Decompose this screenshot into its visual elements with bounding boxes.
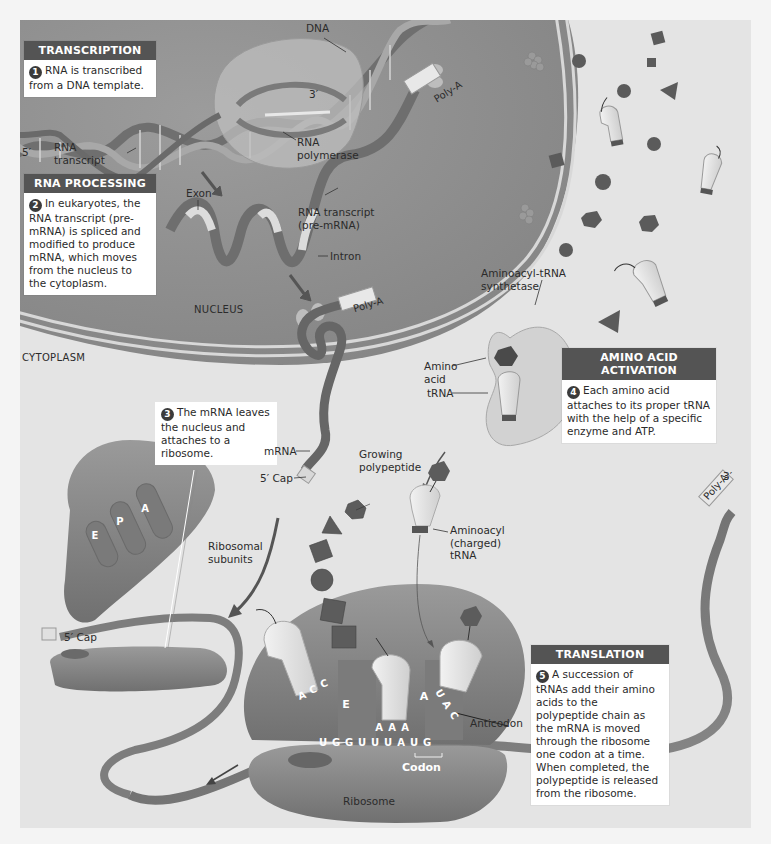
nucleus-label: NUCLEUS bbox=[194, 304, 243, 317]
step-body: 5A succession of tRNAs add their amino a… bbox=[531, 664, 669, 805]
base: U bbox=[317, 737, 329, 748]
mrna-to-ribosome-arrow bbox=[235, 518, 278, 612]
site-e-label: E bbox=[340, 698, 352, 711]
synthetase-label: Aminoacyl-tRNA synthetase bbox=[481, 267, 566, 292]
three-prime-label-top: 3′ bbox=[309, 88, 318, 101]
site-a-label-subunit: A bbox=[139, 503, 151, 514]
step-box-mrna-export: 3The mRNA leaves the nucleus and attache… bbox=[155, 402, 277, 465]
cytoplasm-label: CYTOPLASM bbox=[22, 352, 85, 365]
step-text: RNA is transcribed from a DNA template. bbox=[29, 64, 144, 91]
exon-label: Exon bbox=[186, 187, 212, 200]
ribosome-label: Ribosome bbox=[343, 795, 395, 808]
base: G bbox=[421, 737, 433, 748]
step-title: TRANSLATION bbox=[531, 645, 669, 664]
growing-polypeptide-label: Growing polypeptide bbox=[359, 448, 421, 473]
label-line: transcript bbox=[54, 154, 105, 167]
step-text: A succession of tRNAs add their amino ac… bbox=[536, 668, 658, 799]
amino-acid-label: Amino acid bbox=[424, 360, 457, 385]
label-line: Amino bbox=[424, 360, 457, 373]
step-box-rna-processing: RNA PROCESSING 2In eukaryotes, the RNA t… bbox=[24, 174, 156, 295]
site-e-label-subunit: E bbox=[89, 530, 101, 541]
five-cap-label-lower: 5′ Cap bbox=[64, 631, 97, 644]
anticodon-label: Anticodon bbox=[470, 717, 523, 730]
label-line: synthetase bbox=[481, 280, 566, 293]
step-number-badge: 2 bbox=[29, 199, 42, 212]
site-a-label: A bbox=[418, 690, 430, 703]
label-line: polymerase bbox=[297, 149, 359, 162]
label-line: tRNA bbox=[450, 549, 505, 562]
step-number-badge: 3 bbox=[161, 408, 174, 421]
step-title: TRANSCRIPTION bbox=[24, 41, 156, 60]
base: G bbox=[330, 737, 342, 748]
label-line: Ribosomal bbox=[208, 540, 263, 553]
mrna-label: mRNA bbox=[264, 445, 297, 458]
step-number-badge: 5 bbox=[536, 670, 549, 683]
label-line: Aminoacyl-tRNA bbox=[481, 267, 566, 280]
five-cap-label: 5′ Cap bbox=[260, 472, 293, 485]
label-line: RNA bbox=[297, 136, 359, 149]
label-line: RNA bbox=[54, 141, 105, 154]
base: A bbox=[399, 722, 411, 733]
base: U bbox=[369, 737, 381, 748]
site-p-label-subunit: P bbox=[114, 516, 126, 527]
step-body: 1RNA is transcribed from a DNA template. bbox=[24, 60, 156, 97]
ribosomal-subunits-label: Ribosomal subunits bbox=[208, 540, 263, 565]
rna-transcript-pre-label: RNA transcript (pre-mRNA) bbox=[298, 206, 374, 231]
label-line: Aminoacyl bbox=[450, 524, 505, 537]
label-line: (pre-mRNA) bbox=[298, 219, 374, 232]
trna-label: tRNA bbox=[427, 387, 453, 400]
base: G bbox=[343, 737, 355, 748]
dna-label: DNA bbox=[306, 22, 329, 35]
figure-canvas: NUCLEUS CYTOPLASM TRANSCRIPTION 1RNA is … bbox=[20, 20, 751, 828]
codon-label: Codon bbox=[402, 762, 441, 775]
arrow-head bbox=[206, 777, 216, 785]
base: A bbox=[395, 737, 407, 748]
rna-transcript-label: RNA transcript bbox=[54, 141, 105, 166]
label-line: RNA transcript bbox=[298, 206, 374, 219]
step-body: 4Each amino acid attaches to its proper … bbox=[562, 380, 716, 443]
ribosomal-subunits-separated bbox=[42, 440, 239, 795]
base: U bbox=[408, 737, 420, 748]
step-text: The mRNA leaves the nucleus and attaches… bbox=[161, 406, 270, 459]
step-box-amino-acid-activation: AMINO ACID ACTIVATION 4Each amino acid a… bbox=[562, 348, 716, 443]
step-number-badge: 4 bbox=[567, 386, 580, 399]
step-box-translation: TRANSLATION 5A succession of tRNAs add t… bbox=[531, 645, 669, 805]
step-box-transcription: TRANSCRIPTION 1RNA is transcribed from a… bbox=[24, 41, 156, 97]
charged-trna-label: Aminoacyl (charged) tRNA bbox=[450, 524, 505, 562]
five-prime-label: 5′ bbox=[22, 146, 31, 159]
label-line: (charged) bbox=[450, 537, 505, 550]
label-line: polypeptide bbox=[359, 461, 421, 474]
step-title: RNA PROCESSING bbox=[24, 174, 156, 193]
base: A bbox=[386, 722, 398, 733]
base: A bbox=[373, 722, 385, 733]
intron-label: Intron bbox=[330, 250, 361, 263]
step-number-badge: 1 bbox=[29, 66, 42, 79]
step-body: 2In eukaryotes, the RNA transcript (pre-… bbox=[24, 193, 156, 295]
base: U bbox=[356, 737, 368, 748]
free-trnas bbox=[597, 96, 724, 316]
label-line: subunits bbox=[208, 553, 263, 566]
step-text: Each amino acid attaches to its proper t… bbox=[567, 384, 710, 437]
step-text: In eukaryotes, the RNA transcript (pre-m… bbox=[29, 197, 141, 289]
base: U bbox=[382, 737, 394, 748]
rna-polymerase-label: RNA polymerase bbox=[297, 136, 359, 161]
step-title: AMINO ACID ACTIVATION bbox=[562, 348, 716, 380]
label-line: Growing bbox=[359, 448, 421, 461]
label-line: acid bbox=[424, 373, 457, 386]
